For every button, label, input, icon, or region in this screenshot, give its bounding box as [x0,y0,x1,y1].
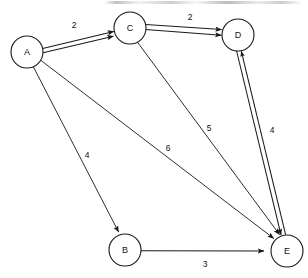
edge-weight-d-e: 4 [270,125,275,135]
node-e[interactable]: E [271,235,303,267]
edge-a-c-stroke-1 [43,31,114,48]
edge-a-c: 2 [42,20,114,53]
node-a-label: A [24,47,30,57]
edge-weight-a-e: 6 [166,143,171,153]
edge-c-d: 2 [145,12,221,35]
edge-b-e: 3 [141,251,264,269]
edge-a-b: 4 [33,67,118,232]
node-a[interactable]: A [11,36,43,68]
edge-weight-a-c: 2 [72,20,77,30]
edge-a-b-stroke [33,67,118,232]
edge-weight-a-b: 4 [85,150,90,160]
node-e-label: E [284,246,290,256]
edge-d-e: 4 [237,51,286,235]
edge-a-c-stroke-2 [42,36,113,53]
node-b-label: B [122,245,128,255]
edge-c-d-stroke-1 [146,25,222,30]
graph-svg: 2 2 4 6 5 4 [0,0,308,278]
edge-weight-c-e: 5 [207,123,212,133]
edge-weight-c-d: 2 [188,12,193,22]
node-b[interactable]: B [109,234,141,266]
edge-e-d-stroke-up [241,51,285,235]
graph-diagram-canvas: 2 2 4 6 5 4 [0,0,308,278]
edge-weight-b-e: 3 [203,259,208,269]
node-c-label: C [127,23,134,33]
node-d[interactable]: D [222,19,254,51]
node-d-label: D [235,30,242,40]
edge-c-d-stroke-2 [145,30,221,36]
node-c[interactable]: C [114,12,146,44]
